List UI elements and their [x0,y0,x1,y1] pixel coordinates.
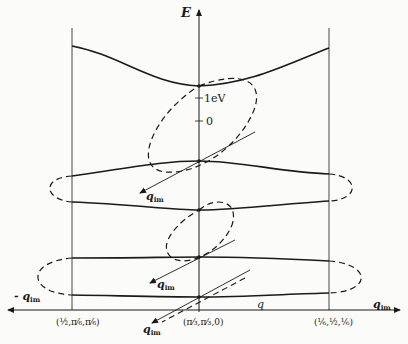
k-point-right-label: (⅙,½,⅙) [314,317,353,327]
point-band-5 [197,295,201,299]
real-q-label: q [257,298,264,311]
tick-label-1ev: 1eV [204,92,227,105]
energy-axis-label: E [180,5,192,20]
point-band-1 [197,84,201,88]
q-im-upper-label: qim [146,190,164,204]
im-axis-upper [140,132,255,193]
loop-upper-center [148,78,256,172]
point-band-4 [197,255,201,259]
band-1 [72,46,329,86]
im-axis-middle [150,240,235,283]
loop-side-upper [50,174,352,202]
diagram-canvas: E 1eV 0 q qim - qim qim qim qim (½,π⁄₆,π… [0,0,408,344]
k-point-center-label: (π⁄₃,π⁄₃,0) [183,317,224,327]
band-structure-diagram: E 1eV 0 q qim - qim qim qim qim (½,π⁄₆,π… [0,0,408,344]
band-2 [72,161,329,176]
k-point-left-label: (½,π⁄₆,π⁄₆) [56,317,100,327]
q-im-middle-label: qim [157,278,175,292]
loop-side-lower [38,258,361,295]
point-band-2 [197,159,201,163]
q-im-left-label: - qim [14,290,41,304]
tick-label-0: 0 [206,115,213,128]
q-im-right-label: qim [373,298,391,312]
q-im-lower-label: qim [143,323,161,337]
point-band-3 [197,208,201,212]
